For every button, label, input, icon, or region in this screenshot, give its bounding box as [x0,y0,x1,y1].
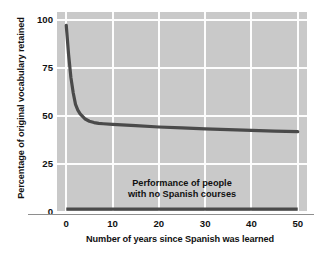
x-tick-label: 10 [98,218,128,229]
x-tick-label: 20 [144,218,174,229]
line-vocabulary-retained [66,25,297,131]
x-axis-title: Number of years since Spanish was learne… [57,234,303,244]
baseline-annotation: Performance of people with no Spanish co… [112,178,252,201]
y-tick-label: 50 [19,111,53,121]
x-axis-tick-labels: 01020304050 [57,218,307,232]
x-tick-label: 50 [283,218,313,229]
chart-figure: Percentage of original vocabulary retain… [0,0,319,253]
x-tick-label: 30 [190,218,220,229]
y-tick-label: 0 [19,207,53,217]
y-tick-label: 25 [19,159,53,169]
x-tick-label: 40 [236,218,266,229]
annotation-line-2: with no Spanish courses [112,189,252,201]
annotation-line-1: Performance of people [112,178,252,190]
y-tick-label: 75 [19,63,53,73]
x-axis-line [28,214,314,215]
x-tick-label: 0 [51,218,81,229]
y-axis-tick-labels: 0255075100 [14,12,53,212]
plot-area: Performance of people with no Spanish co… [57,12,307,212]
y-tick-label: 100 [19,15,53,25]
